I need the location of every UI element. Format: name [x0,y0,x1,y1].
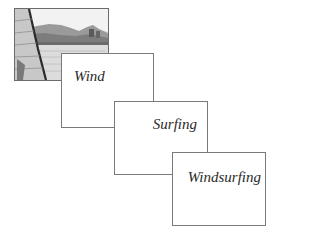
card-surfing-label: Surfing [153,116,197,133]
card-windsurfing: Windsurfing [172,152,266,226]
card-wind-label: Wind [74,68,105,85]
card-windsurfing-label: Windsurfing [188,169,261,186]
